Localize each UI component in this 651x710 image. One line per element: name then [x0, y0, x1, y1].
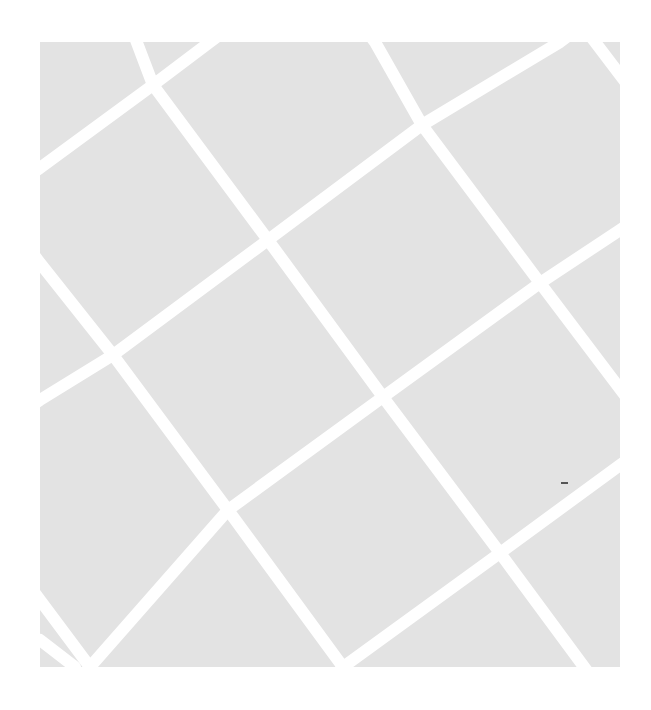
grey-tile — [40, 42, 620, 667]
marks — [561, 482, 568, 484]
grid-pattern-image — [0, 0, 651, 710]
small-dash — [561, 482, 568, 484]
